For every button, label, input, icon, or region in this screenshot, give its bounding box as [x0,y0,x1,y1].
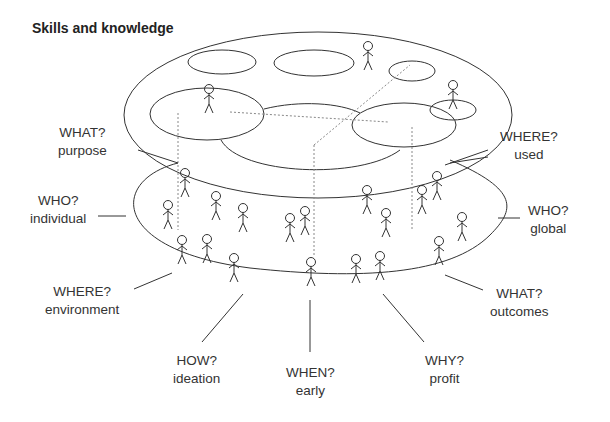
label-who-global: WHO?global [528,202,569,238]
label-question: WHAT? [58,124,107,142]
label-answer: used [500,146,558,164]
label-question: WHO? [30,192,86,210]
label-question: WHY? [425,352,464,370]
label-answer: early [286,382,335,400]
label-question: WHERE? [45,283,119,301]
upper-layer [124,32,512,198]
label-question: WHEN? [286,364,335,382]
label-where-used: WHERE?used [500,128,558,164]
label-question: HOW? [173,352,220,370]
label-question: WHO? [528,202,569,220]
skills-diagram [0,0,610,422]
dotted-connectors [178,65,412,255]
label-answer: ideation [173,370,220,388]
label-question: WHAT? [490,285,549,303]
label-answer: outcomes [490,303,549,321]
label-answer: purpose [58,142,107,160]
label-how-ideation: HOW?ideation [173,352,220,388]
label-what-purpose: WHAT?purpose [58,124,107,160]
label-answer: global [528,220,569,238]
label-why-profit: WHY?profit [425,352,464,388]
label-connectors [98,150,520,352]
label-answer: profit [425,370,464,388]
people-lower [163,169,467,287]
label-answer: environment [45,301,119,319]
label-what-outcomes: WHAT?outcomes [490,285,549,321]
label-when-early: WHEN?early [286,364,335,400]
label-question: WHERE? [500,128,558,146]
label-who-individual: WHO?individual [30,192,86,228]
label-where-environment: WHERE?environment [45,283,119,319]
label-answer: individual [30,210,86,228]
diagram-title: Skills and knowledge [32,20,174,36]
